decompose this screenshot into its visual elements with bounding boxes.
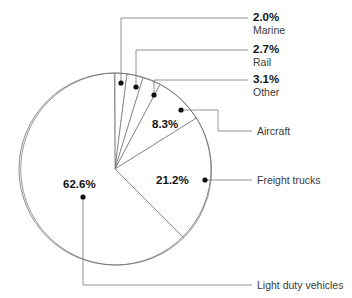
value-label-aircraft: 8.3% bbox=[152, 118, 178, 130]
callout-name-marine: Marine bbox=[253, 24, 285, 36]
marker-dot-light-duty-vehicles bbox=[80, 194, 85, 199]
marker-dot-rail bbox=[133, 84, 138, 89]
leader-line-marine bbox=[121, 18, 248, 83]
marker-dot-aircraft bbox=[178, 107, 183, 112]
callout-name-light-duty-vehicles: Light duty vehicles bbox=[257, 279, 343, 291]
callout-pct-rail: 2.7% bbox=[253, 43, 279, 55]
callout-name-rail: Rail bbox=[253, 56, 271, 68]
pie-slices bbox=[19, 73, 212, 265]
value-label-freight-trucks: 21.2% bbox=[156, 174, 189, 186]
callout-name-other: Other bbox=[253, 86, 280, 98]
callout-name-aircraft: Aircraft bbox=[257, 125, 290, 137]
pie-chart-svg: 8.3% 21.2% 62.6% 2.0% Marine 2.7% Rail 3… bbox=[0, 0, 352, 298]
callout-labels: 2.0% Marine 2.7% Rail 3.1% Other Aircraf… bbox=[253, 11, 343, 291]
callout-pct-other: 3.1% bbox=[253, 73, 279, 85]
callout-name-freight-trucks: Freight trucks bbox=[257, 174, 321, 186]
value-label-light-duty-vehicles: 62.6% bbox=[63, 178, 96, 190]
pie-chart-figure: 8.3% 21.2% 62.6% 2.0% Marine 2.7% Rail 3… bbox=[0, 0, 352, 298]
callout-pct-marine: 2.0% bbox=[253, 11, 279, 23]
marker-dot-marine bbox=[118, 80, 123, 85]
marker-dot-freight-trucks bbox=[202, 177, 207, 182]
marker-dot-other bbox=[151, 92, 156, 97]
